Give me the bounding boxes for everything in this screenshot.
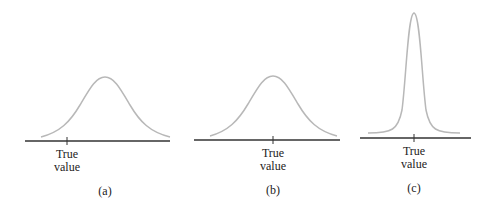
label-line-2: value <box>394 158 434 171</box>
distribution-curve-c <box>368 13 460 133</box>
figure-canvas <box>0 0 493 211</box>
distribution-curve-b <box>210 76 337 136</box>
true-value-label-a: True value <box>47 148 87 174</box>
true-value-label-b: True value <box>253 147 293 173</box>
label-line-2: value <box>253 160 293 173</box>
caption-b: (b) <box>253 183 293 198</box>
caption-a: (a) <box>85 184 125 199</box>
caption-c: (c) <box>394 181 434 196</box>
distribution-curve-a <box>41 77 170 137</box>
label-line-2: value <box>47 161 87 174</box>
true-value-label-c: True value <box>394 145 434 171</box>
panel-b <box>194 76 340 144</box>
panel-a <box>25 77 170 145</box>
panel-c <box>360 13 471 142</box>
